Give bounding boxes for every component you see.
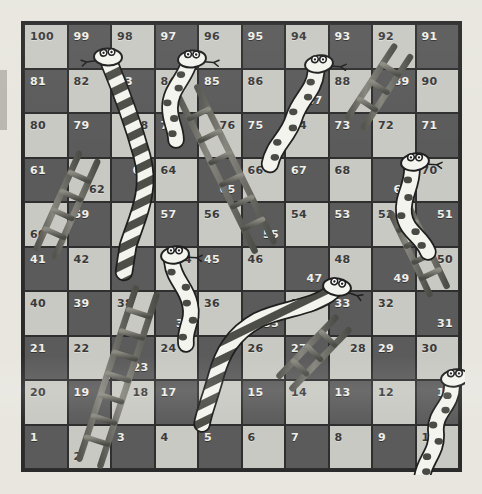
board-square-17[interactable]: 17: [155, 380, 199, 425]
board-square-61[interactable]: 61: [24, 158, 68, 203]
board-square-48[interactable]: 48: [329, 247, 373, 292]
board-square-88[interactable]: 88: [329, 69, 373, 114]
board-square-58[interactable]: 58: [111, 202, 155, 247]
board-square-81[interactable]: 81: [24, 69, 68, 114]
board-square-84[interactable]: 84: [155, 69, 199, 114]
board-square-14[interactable]: 14: [285, 380, 329, 425]
board-square-3[interactable]: 3: [111, 425, 155, 470]
board-square-18[interactable]: 18: [111, 380, 155, 425]
board-square-69[interactable]: 69: [372, 158, 416, 203]
board-square-15[interactable]: 15: [242, 380, 286, 425]
board-square-19[interactable]: 19: [68, 380, 112, 425]
board-square-76[interactable]: 76: [198, 113, 242, 158]
board-square-47[interactable]: 47: [285, 247, 329, 292]
board-square-94[interactable]: 94: [285, 24, 329, 69]
board-square-83[interactable]: 83: [111, 69, 155, 114]
board-square-21[interactable]: 21: [24, 336, 68, 381]
board-square-56[interactable]: 56: [198, 202, 242, 247]
board-square-73[interactable]: 73: [329, 113, 373, 158]
board-square-46[interactable]: 46: [242, 247, 286, 292]
board-square-89[interactable]: 89: [372, 69, 416, 114]
board-square-49[interactable]: 49: [372, 247, 416, 292]
board-square-29[interactable]: 29: [372, 336, 416, 381]
board-square-36[interactable]: 36: [198, 291, 242, 336]
board-square-93[interactable]: 93: [329, 24, 373, 69]
board-square-57[interactable]: 57: [155, 202, 199, 247]
board-square-33[interactable]: 33: [329, 291, 373, 336]
board-square-64[interactable]: 64: [155, 158, 199, 203]
board-square-51[interactable]: 51: [416, 202, 460, 247]
board-square-98[interactable]: 98: [111, 24, 155, 69]
board-square-63[interactable]: 63: [111, 158, 155, 203]
board-square-2[interactable]: 2: [68, 425, 112, 470]
board-square-72[interactable]: 72: [372, 113, 416, 158]
board-square-12[interactable]: 12: [372, 380, 416, 425]
board-square-10[interactable]: 10: [416, 425, 460, 470]
board-square-50[interactable]: 50: [416, 247, 460, 292]
board-square-82[interactable]: 82: [68, 69, 112, 114]
board-square-34[interactable]: 34: [285, 291, 329, 336]
board-square-44[interactable]: 44: [155, 247, 199, 292]
board-square-66[interactable]: 66: [242, 158, 286, 203]
board-square-38[interactable]: 38: [111, 291, 155, 336]
board-square-25[interactable]: 25: [198, 336, 242, 381]
board-square-67[interactable]: 67: [285, 158, 329, 203]
board-square-39[interactable]: 39: [68, 291, 112, 336]
board-square-60[interactable]: 60: [24, 202, 68, 247]
board-square-37[interactable]: 37: [155, 291, 199, 336]
board-square-53[interactable]: 53: [329, 202, 373, 247]
board-square-41[interactable]: 41: [24, 247, 68, 292]
board-square-27[interactable]: 27: [285, 336, 329, 381]
board-square-30[interactable]: 30: [416, 336, 460, 381]
board-square-26[interactable]: 26: [242, 336, 286, 381]
board-square-71[interactable]: 71: [416, 113, 460, 158]
board-square-43[interactable]: 43: [111, 247, 155, 292]
board-square-90[interactable]: 90: [416, 69, 460, 114]
board-square-7[interactable]: 7: [285, 425, 329, 470]
board-square-70[interactable]: 70: [416, 158, 460, 203]
board-square-13[interactable]: 13: [329, 380, 373, 425]
board-square-65[interactable]: 65: [198, 158, 242, 203]
board-square-92[interactable]: 92: [372, 24, 416, 69]
board-square-91[interactable]: 91: [416, 24, 460, 69]
board-square-79[interactable]: 79: [68, 113, 112, 158]
board-square-59[interactable]: 59: [68, 202, 112, 247]
board-square-9[interactable]: 9: [372, 425, 416, 470]
board-square-77[interactable]: 77: [155, 113, 199, 158]
board-square-20[interactable]: 20: [24, 380, 68, 425]
board-square-95[interactable]: 95: [242, 24, 286, 69]
board-square-5[interactable]: 5: [198, 425, 242, 470]
board-square-8[interactable]: 8: [329, 425, 373, 470]
board-square-86[interactable]: 86: [242, 69, 286, 114]
board-square-24[interactable]: 24: [155, 336, 199, 381]
board-square-85[interactable]: 85: [198, 69, 242, 114]
board-square-16[interactable]: 16: [198, 380, 242, 425]
board-square-55[interactable]: 55: [242, 202, 286, 247]
board-square-32[interactable]: 32: [372, 291, 416, 336]
board-square-42[interactable]: 42: [68, 247, 112, 292]
snakes-and-ladders-board[interactable]: 1009998979695949392918182838485868788899…: [21, 21, 462, 472]
board-square-11[interactable]: 11: [416, 380, 460, 425]
board-square-31[interactable]: 31: [416, 291, 460, 336]
board-square-87[interactable]: 87: [285, 69, 329, 114]
board-square-80[interactable]: 80: [24, 113, 68, 158]
board-square-100[interactable]: 100: [24, 24, 68, 69]
board-square-40[interactable]: 40: [24, 291, 68, 336]
board-square-96[interactable]: 96: [198, 24, 242, 69]
board-square-45[interactable]: 45: [198, 247, 242, 292]
board-square-68[interactable]: 68: [329, 158, 373, 203]
board-square-99[interactable]: 99: [68, 24, 112, 69]
board-square-1[interactable]: 1: [24, 425, 68, 470]
board-square-6[interactable]: 6: [242, 425, 286, 470]
board-square-74[interactable]: 74: [285, 113, 329, 158]
board-square-28[interactable]: 28: [329, 336, 373, 381]
board-square-4[interactable]: 4: [155, 425, 199, 470]
board-square-78[interactable]: 78: [111, 113, 155, 158]
board-square-97[interactable]: 97: [155, 24, 199, 69]
board-square-52[interactable]: 52: [372, 202, 416, 247]
board-square-35[interactable]: 35: [242, 291, 286, 336]
board-square-23[interactable]: 23: [111, 336, 155, 381]
board-square-62[interactable]: 62: [68, 158, 112, 203]
board-square-75[interactable]: 75: [242, 113, 286, 158]
board-square-22[interactable]: 22: [68, 336, 112, 381]
